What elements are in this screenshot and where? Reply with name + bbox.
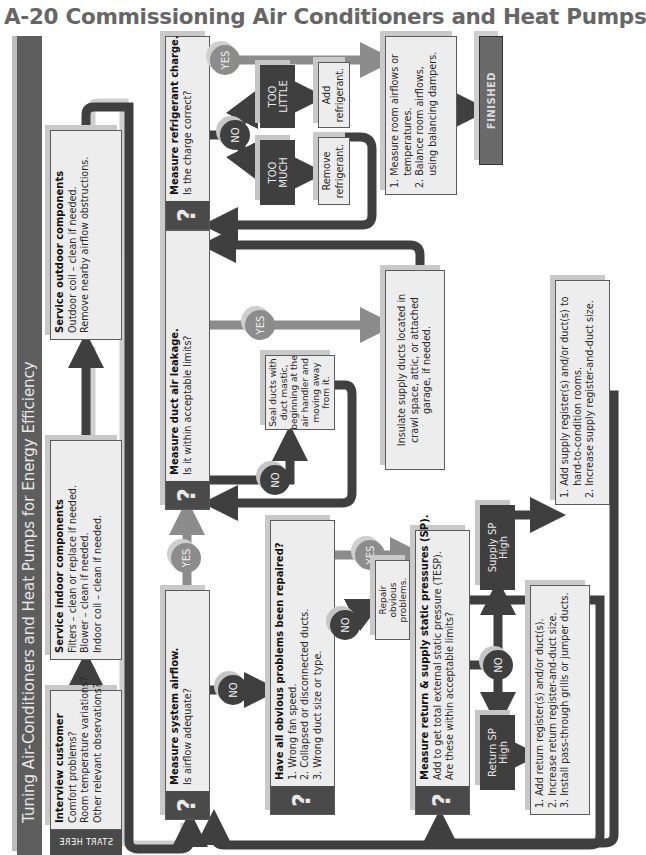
return-high-line: High	[498, 715, 509, 790]
too-little-line: LITTLE	[278, 65, 289, 128]
leakage-title: Measure duct air leakage.	[169, 328, 182, 475]
airflow-title: Measure system airflow.	[169, 648, 182, 785]
step-service-indoor: Service indoor components Filters – clea…	[50, 440, 122, 660]
finished-badge: FINISHED	[479, 36, 503, 165]
seal-line: duct mastic,	[279, 365, 290, 421]
outdoor-title: Service outdoor components	[54, 137, 67, 333]
remove-line: Remove	[321, 152, 334, 191]
return-sp-high: Return SP High	[480, 715, 515, 790]
balance-line: temperatures.	[402, 43, 415, 188]
title-banner: Tuning Air-Conditioners and Heat Pumps f…	[17, 36, 42, 855]
return-fix-line: 2. Increase return register-and-duct siz…	[547, 592, 560, 808]
no-badge: NO	[220, 120, 250, 150]
step-insulate-ducts: Insulate supply ducts located in crawl s…	[385, 270, 445, 470]
supply-high-line: High	[498, 505, 509, 590]
seal-line: Seal ducts with	[268, 358, 279, 427]
sp-line: Are these within acceptable limits?	[444, 514, 457, 780]
balance-line: using balancing dampers.	[427, 43, 440, 188]
step-return-fixes: 1. Add return register(s) and/or duct(s)…	[530, 585, 590, 815]
repair-line: obvious	[388, 583, 398, 618]
question-icon: ?	[166, 481, 209, 509]
finished-label: FINISHED	[486, 72, 497, 129]
step-service-outdoor: Service outdoor components Outdoor coil …	[50, 130, 122, 340]
too-little-line: TOO	[267, 65, 278, 128]
supply-fix-line: 2. Increase supply register-and-duct siz…	[584, 287, 597, 498]
decision-static-pressure: ? Measure return & supply static pressur…	[415, 530, 470, 815]
start-here-tab: START HERE	[50, 830, 122, 855]
interview-line: Comfort problems?	[67, 697, 80, 823]
obvious-line: 2. Collapsed or disconnected ducts.	[299, 542, 312, 780]
obvious-line: 3. Wrong duct size or type.	[312, 542, 325, 780]
obvious-title: Have all obvious problems been repaired?	[274, 542, 287, 780]
step-interview-customer: Interview customer Comfort problems? Roo…	[50, 690, 122, 830]
seal-line: moving away	[311, 362, 322, 422]
supply-sp-high: Supply SP High	[480, 505, 515, 590]
repair-line: problems.	[398, 578, 408, 623]
insulate-line: Insulate supply ducts located in	[396, 294, 409, 446]
step-remove-refrigerant: Remove refrigerant.	[318, 137, 350, 205]
indoor-line: Blower – clean if needed.	[79, 447, 92, 653]
refrigerant-question: Is the charge correct?	[182, 35, 195, 195]
indoor-line: Indoor coil – clean if needed.	[92, 447, 105, 653]
remove-line: refrigerant.	[334, 144, 347, 198]
step-balance-airflows: 1. Measure room airflows or temperatures…	[385, 36, 457, 195]
step-supply-fixes: 1. Add supply register(s) and/or duct(s)…	[555, 280, 610, 505]
sp-line: Add to get total external static pressur…	[432, 514, 445, 780]
balance-line: 2. Balance room airflows,	[414, 43, 427, 188]
seal-line: air handler and	[300, 358, 311, 427]
question-icon: ?	[416, 786, 469, 814]
no-badge: NO	[260, 465, 290, 495]
yes-badge: YES	[210, 45, 240, 75]
decision-obvious-problems: ? Have all obvious problems been repaire…	[270, 520, 335, 815]
repair-line: Repair	[378, 586, 388, 615]
step-seal-ducts: Seal ducts with duct mastic, beginning a…	[265, 355, 335, 430]
decision-duct-leakage: ? Measure duct air leakage. Is it within…	[165, 230, 210, 510]
obvious-line: 1. Wrong fan speed.	[287, 542, 300, 780]
outdoor-line: Outdoor coil – clean if needed.	[67, 137, 80, 333]
insulate-line: garage, if needed.	[421, 326, 434, 414]
flowchart-canvas: Tuning Air-Conditioners and Heat Pumps f…	[0, 36, 622, 855]
return-fix-line: 3. Install pass-through grills or jumper…	[559, 592, 572, 808]
decision-refrigerant-charge: ? Measure refrigerant charge. Is the cha…	[165, 36, 210, 230]
interview-title: Interview customer	[54, 697, 67, 823]
indoor-title: Service indoor components	[54, 447, 67, 653]
no-badge: NO	[218, 675, 248, 705]
sp-title: Measure return & supply static pressures…	[419, 514, 432, 780]
decision-system-airflow: ? Measure system airflow. Is airflow ade…	[165, 590, 210, 820]
supply-fix-line: hard-to-condition rooms.	[572, 287, 585, 498]
step-repair-obvious: Repair obvious problems.	[375, 560, 410, 640]
refrigerant-title: Measure refrigerant charge.	[169, 35, 182, 195]
leakage-question: Is it within acceptable limits?	[182, 328, 195, 475]
return-fix-line: 1. Add return register(s) and/or duct(s)…	[534, 592, 547, 808]
balance-line: 1. Measure room airflows or	[389, 43, 402, 188]
airflow-question: Is airflow adequate?	[182, 648, 195, 785]
add-line: Add	[321, 86, 334, 105]
yes-badge: YES	[171, 543, 201, 573]
seal-line: from it.	[321, 376, 332, 409]
no-badge: NO	[330, 610, 360, 640]
yes-badge: YES	[245, 310, 275, 340]
question-icon: ?	[166, 791, 209, 819]
supply-fix-line: 1. Add supply register(s) and/or duct(s)…	[559, 287, 572, 498]
interview-line: Room temperature variations?	[79, 697, 92, 823]
question-icon: ?	[166, 201, 209, 229]
outdoor-line: Remove nearby airflow obstructions.	[79, 137, 92, 333]
return-high-line: Return SP	[487, 715, 498, 790]
banner-title: Tuning Air-Conditioners and Heat Pumps f…	[20, 361, 38, 823]
too-much-line: MUCH	[278, 140, 289, 205]
question-icon: ?	[271, 786, 334, 814]
supply-high-line: Supply SP	[487, 505, 498, 590]
add-line: refrigerant.	[334, 68, 347, 122]
insulate-line: crawl space, attic, or attached	[409, 297, 422, 443]
start-here-label: START HERE	[59, 838, 113, 847]
interview-line: Other relevant observations?	[92, 697, 105, 823]
too-much-line: TOO	[267, 140, 278, 205]
no-badge: NO	[483, 650, 513, 680]
seal-line: beginning at the	[289, 355, 300, 429]
step-add-refrigerant: Add refrigerant.	[318, 62, 350, 128]
too-little-label: TOO LITTLE	[260, 65, 295, 128]
too-much-label: TOO MUCH	[260, 140, 295, 205]
indoor-line: Filters – clean or replace if needed.	[67, 447, 80, 653]
page-title: A-20 Commissioning Air Conditioners and …	[4, 0, 646, 34]
